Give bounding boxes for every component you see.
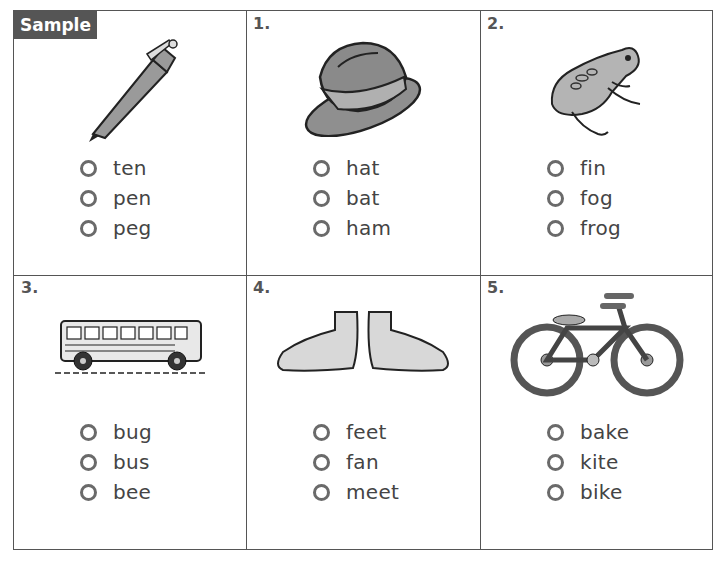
- answer-bubble[interactable]: [80, 160, 97, 177]
- answer-bubble[interactable]: [547, 160, 564, 177]
- answer-bubble[interactable]: [547, 484, 564, 501]
- sample-label: Sample: [14, 11, 97, 39]
- item-4: 4. feet fan meet: [246, 275, 480, 551]
- answer-bubble[interactable]: [313, 190, 330, 207]
- choice-option[interactable]: hat: [313, 153, 413, 183]
- school-bus-icon: [14, 295, 246, 395]
- choice-option[interactable]: meet: [313, 477, 413, 507]
- item-2: 2. fin fog frog: [480, 11, 714, 275]
- answer-bubble[interactable]: [547, 424, 564, 441]
- choice-option[interactable]: ham: [313, 213, 413, 243]
- choice-option[interactable]: kite: [547, 447, 647, 477]
- answer-bubble[interactable]: [80, 424, 97, 441]
- answer-bubble[interactable]: [313, 454, 330, 471]
- item-5: 5. bake kite bike: [480, 275, 714, 551]
- choice-option[interactable]: fog: [547, 183, 647, 213]
- feet-icon: [246, 295, 480, 395]
- choice-option[interactable]: fan: [313, 447, 413, 477]
- item-sample: ten pen peg: [14, 11, 246, 275]
- answer-bubble[interactable]: [547, 220, 564, 237]
- choice-option[interactable]: pen: [80, 183, 180, 213]
- answer-bubble[interactable]: [313, 484, 330, 501]
- answer-bubble[interactable]: [313, 160, 330, 177]
- answer-bubble[interactable]: [313, 220, 330, 237]
- answer-bubble[interactable]: [547, 454, 564, 471]
- choice-option[interactable]: bat: [313, 183, 413, 213]
- answer-bubble[interactable]: [80, 190, 97, 207]
- choice-option[interactable]: bike: [547, 477, 647, 507]
- choice-option[interactable]: peg: [80, 213, 180, 243]
- choice-option[interactable]: bee: [80, 477, 180, 507]
- choice-option[interactable]: bake: [547, 417, 647, 447]
- bicycle-icon: [480, 285, 714, 400]
- answer-bubble[interactable]: [313, 424, 330, 441]
- answer-bubble[interactable]: [80, 454, 97, 471]
- worksheet-grid: ten pen peg 1. hat bat ham 2.: [13, 10, 713, 550]
- choice-option[interactable]: bus: [80, 447, 180, 477]
- answer-bubble[interactable]: [80, 484, 97, 501]
- frog-icon: [480, 29, 714, 144]
- choice-option[interactable]: frog: [547, 213, 647, 243]
- pen-icon: [14, 29, 246, 144]
- choice-option[interactable]: ten: [80, 153, 180, 183]
- item-1: 1. hat bat ham: [246, 11, 480, 275]
- choice-option[interactable]: feet: [313, 417, 413, 447]
- answer-bubble[interactable]: [547, 190, 564, 207]
- choice-option[interactable]: fin: [547, 153, 647, 183]
- hat-icon: [246, 29, 480, 144]
- answer-bubble[interactable]: [80, 220, 97, 237]
- choice-option[interactable]: bug: [80, 417, 180, 447]
- item-3: 3. bug bus bee: [14, 275, 246, 551]
